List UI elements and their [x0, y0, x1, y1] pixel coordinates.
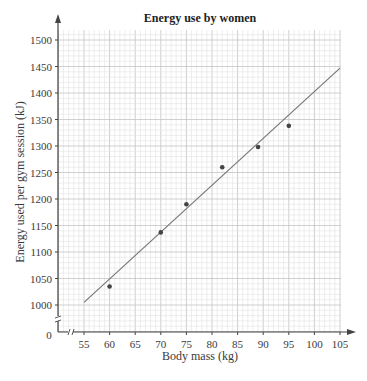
- y-tick-label: 1250: [30, 167, 53, 179]
- data-point: [256, 145, 261, 150]
- data-point: [220, 165, 225, 170]
- data-point: [107, 284, 112, 289]
- y-tick-label: 1050: [30, 273, 53, 285]
- data-point: [184, 202, 189, 207]
- y-axis-label: Energy used per gym session (kJ): [13, 101, 27, 262]
- x-tick-label: 105: [332, 338, 349, 350]
- x-tick-label: 90: [258, 338, 270, 350]
- x-tick-label: 60: [104, 338, 116, 350]
- y-tick-label: 1450: [30, 61, 53, 73]
- data-point: [287, 124, 292, 129]
- y-tick-label: 1500: [30, 34, 53, 46]
- origin-label: 0: [46, 329, 52, 341]
- y-tick-label: 1000: [30, 299, 53, 311]
- x-tick-label: 65: [130, 338, 142, 350]
- scatter-chart: 5560657075808590951001051000105011001150…: [0, 0, 367, 381]
- x-tick-label: 100: [306, 338, 323, 350]
- x-axis-label: Body mass (kg): [162, 349, 238, 363]
- x-tick-label: 95: [283, 338, 295, 350]
- chart-title: Energy use by women: [144, 11, 257, 25]
- y-tick-label: 1200: [30, 193, 53, 205]
- tick-labels: 5560657075808590951001051000105011001150…: [30, 34, 349, 350]
- y-tick-label: 1300: [30, 140, 53, 152]
- y-tick-label: 1400: [30, 87, 53, 99]
- y-tick-label: 1100: [30, 246, 52, 258]
- y-tick-label: 1350: [30, 114, 53, 126]
- y-tick-label: 1150: [30, 220, 52, 232]
- x-tick-label: 55: [79, 338, 91, 350]
- data-point: [159, 230, 164, 235]
